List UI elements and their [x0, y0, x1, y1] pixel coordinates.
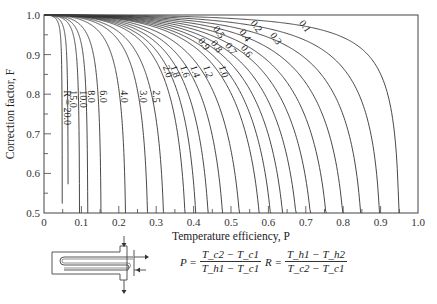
formula-R-denominator: T_c2 − T_c1 — [286, 262, 347, 275]
x-tick-label: 0.5 — [224, 216, 238, 228]
y-tick-label: 0.9 — [26, 49, 40, 61]
heat-exchanger-schematic — [52, 236, 146, 292]
arrow-down-icon — [122, 290, 127, 294]
y-tick-label: 0.5 — [26, 207, 40, 219]
x-tick-label: 0.6 — [262, 216, 276, 228]
x-tick-label: 0.1 — [75, 216, 89, 228]
curve-label: 1.0 — [217, 64, 231, 79]
formula-P-lhs: P = — [180, 256, 197, 268]
arrow-right-icon — [145, 255, 149, 260]
x-tick-label: 0.2 — [112, 216, 126, 228]
curve-label: 3.0 — [138, 90, 149, 103]
formula-R-numerator: T_h1 − T_h2 — [285, 248, 347, 262]
curve-label: 2.5 — [151, 90, 162, 103]
curve-label: 0.7 — [223, 40, 239, 57]
flow-arrows — [122, 243, 150, 294]
x-tick-label: 0.7 — [299, 216, 313, 228]
x-tick-label: 0.3 — [149, 216, 163, 228]
curve-label: 0.5 — [211, 24, 227, 41]
curve-R-0.6 — [44, 15, 311, 213]
formula-P-fraction: T_c2 − T_c1 T_h1 − T_c1 — [200, 248, 262, 275]
x-axis-ticks: 00.10.20.30.40.50.60.70.80.91.0 — [41, 206, 425, 228]
y-tick-label: 0.8 — [26, 88, 40, 100]
formula-P-numerator: T_c2 − T_c1 — [200, 248, 261, 262]
curve-R-0.9 — [44, 15, 271, 213]
curve-label: 1.2 — [201, 64, 215, 79]
curve-R-20.0 — [44, 15, 62, 204]
curve-label: 4.0 — [119, 90, 130, 103]
y-tick-label: 0.7 — [26, 128, 40, 140]
curve-R-3.0 — [44, 15, 148, 213]
curve-label: 0.3 — [268, 30, 284, 47]
curve-label: 0.1 — [297, 18, 313, 35]
x-tick-label: 0.8 — [336, 216, 350, 228]
y-axis-ticks: 0.50.60.70.80.91.0 — [26, 9, 51, 219]
tube-bundle-inner — [62, 259, 133, 268]
y-tick-label: 1.0 — [26, 9, 40, 21]
formula-R-fraction: T_h1 − T_h2 T_c2 − T_c1 — [285, 248, 347, 275]
curve-label: 8.0 — [86, 90, 97, 103]
curve-label: 1.4 — [188, 64, 202, 79]
curve-label: 15.0 — [68, 90, 79, 108]
x-tick-label: 0 — [41, 216, 47, 228]
x-axis-title: Temperature efficiency, P — [172, 230, 290, 243]
curve-label: 0.4 — [237, 27, 253, 44]
x-tick-label: 0.4 — [187, 216, 201, 228]
curve-R-0.7 — [44, 15, 296, 213]
curve-label: 6.0 — [98, 90, 109, 103]
curve-label: 0.6 — [239, 43, 255, 60]
y-axis-title: Correction factor, F — [4, 69, 17, 160]
formula-R-lhs: R = — [265, 256, 282, 268]
formula-P: P = T_c2 − T_c1 T_h1 − T_c1 — [180, 248, 264, 275]
y-tick-label: 0.6 — [26, 167, 40, 179]
x-tick-label: 0.9 — [374, 216, 388, 228]
arrow-left-icon — [136, 268, 140, 273]
curve-R-4.0 — [44, 15, 126, 213]
x-tick-label: 1.0 — [411, 216, 425, 228]
formula-P-denominator: T_h1 − T_c1 — [200, 262, 262, 275]
formula-R: R = T_h1 − T_h2 T_c2 − T_c1 — [265, 248, 350, 275]
